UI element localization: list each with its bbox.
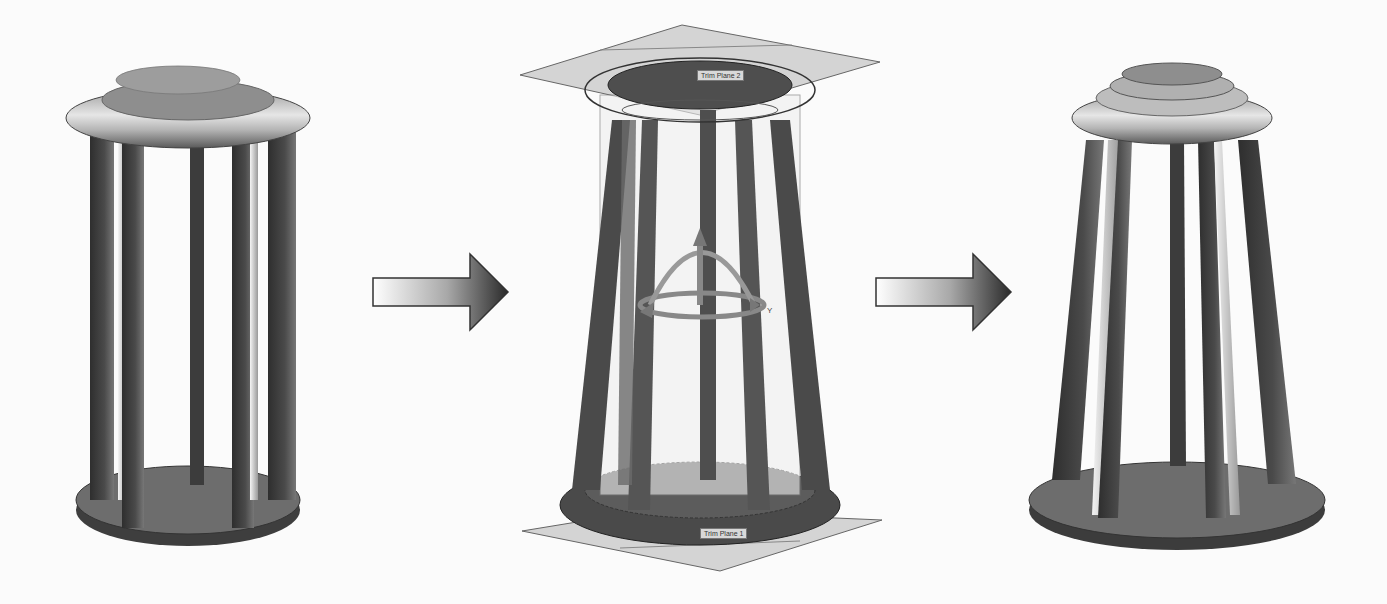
stage-result-model	[1029, 63, 1325, 550]
leg-front-right	[268, 125, 296, 500]
stage-original-model	[66, 66, 310, 546]
leg-back-center	[190, 135, 204, 485]
arrow-right-icon	[876, 254, 1011, 330]
result-leg-right	[1238, 140, 1296, 484]
stage-flex-preview	[520, 25, 882, 571]
top-cap-top	[116, 66, 240, 94]
trim-plane-1-label[interactable]: Trim Plane 1	[700, 528, 747, 539]
triad-y-axis-label: Y	[767, 306, 772, 315]
result-cap-top	[1122, 63, 1222, 85]
arrow-right-icon	[373, 254, 508, 330]
diagram-canvas	[0, 0, 1387, 604]
leg-front-left-2	[122, 130, 144, 528]
leg-front-left	[90, 125, 114, 500]
leg-right-light	[250, 130, 258, 500]
preview-top-cap	[608, 61, 792, 109]
trim-plane-2-label[interactable]: Trim Plane 2	[697, 70, 744, 81]
result-leg-back-center	[1170, 140, 1186, 466]
